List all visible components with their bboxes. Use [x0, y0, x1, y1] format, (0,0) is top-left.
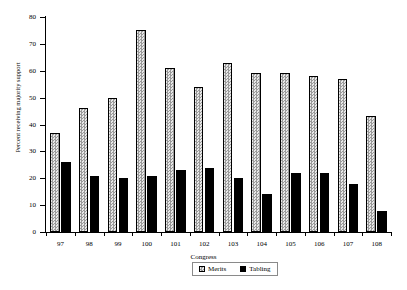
bar-tabling-106 — [320, 173, 330, 232]
x-tick-mark — [391, 232, 392, 236]
bar-tabling-99 — [119, 178, 129, 232]
x-tick-mark — [104, 232, 105, 236]
bar-tabling-102 — [205, 168, 215, 233]
legend-label: Merits — [208, 265, 226, 273]
bar-merits-97 — [50, 133, 60, 232]
bar-tabling-97 — [61, 162, 71, 232]
bar-tabling-100 — [147, 176, 157, 232]
x-tick-mark — [190, 232, 191, 236]
bar-merits-105 — [280, 73, 290, 232]
bar-tabling-103 — [234, 178, 244, 232]
bar-tabling-107 — [349, 184, 359, 232]
y-tick-mark — [40, 71, 45, 72]
bar-merits-101 — [165, 68, 175, 232]
bar-tabling-101 — [176, 170, 186, 232]
y-tick-label: 10 — [0, 202, 36, 209]
bar-merits-108 — [366, 116, 376, 232]
x-tick-mark — [132, 232, 133, 236]
y-tick-mark — [40, 44, 45, 45]
bar-chart: 01020304050607080 Percent receiving majo… — [0, 0, 407, 290]
bar-merits-107 — [338, 79, 348, 232]
y-tick-label: 80 — [0, 14, 36, 21]
bar-tabling-98 — [90, 176, 100, 232]
bar-tabling-108 — [377, 211, 387, 233]
x-tick-mark — [161, 232, 162, 236]
legend-item-tabling: Tabling — [240, 265, 270, 273]
x-tick-mark — [46, 232, 47, 236]
y-tick-mark — [40, 205, 45, 206]
x-tick-mark — [276, 232, 277, 236]
legend-item-merits: Merits — [199, 265, 226, 273]
x-tick-label-108: 108 — [357, 240, 397, 248]
y-tick-mark — [40, 232, 45, 233]
legend-label: Tabling — [249, 265, 270, 273]
y-tick-mark — [40, 17, 45, 18]
x-tick-mark — [305, 232, 306, 236]
x-tick-mark — [219, 232, 220, 236]
x-tick-mark — [334, 232, 335, 236]
hatched-square-icon — [199, 266, 205, 272]
bar-merits-106 — [309, 76, 319, 232]
bar-merits-100 — [136, 30, 146, 232]
x-tick-mark — [247, 232, 248, 236]
bar-tabling-105 — [291, 173, 301, 232]
x-tick-mark — [75, 232, 76, 236]
y-tick-mark — [40, 151, 45, 152]
x-tick-mark — [362, 232, 363, 236]
filled-square-icon — [240, 266, 246, 272]
bar-merits-99 — [108, 98, 118, 232]
bar-merits-103 — [223, 63, 233, 232]
y-tick-mark — [40, 178, 45, 179]
bar-merits-102 — [194, 87, 204, 232]
bar-merits-104 — [251, 73, 261, 232]
chart-legend: MeritsTabling — [192, 262, 278, 276]
plot-area — [46, 17, 391, 232]
y-axis-title: Percent receiving majority support — [14, 28, 21, 188]
x-axis-title: Congress — [0, 253, 407, 261]
bar-tabling-104 — [262, 194, 272, 232]
y-tick-mark — [40, 125, 45, 126]
y-tick-label: 0 — [0, 229, 36, 236]
bar-merits-98 — [79, 108, 89, 232]
y-tick-mark — [40, 98, 45, 99]
